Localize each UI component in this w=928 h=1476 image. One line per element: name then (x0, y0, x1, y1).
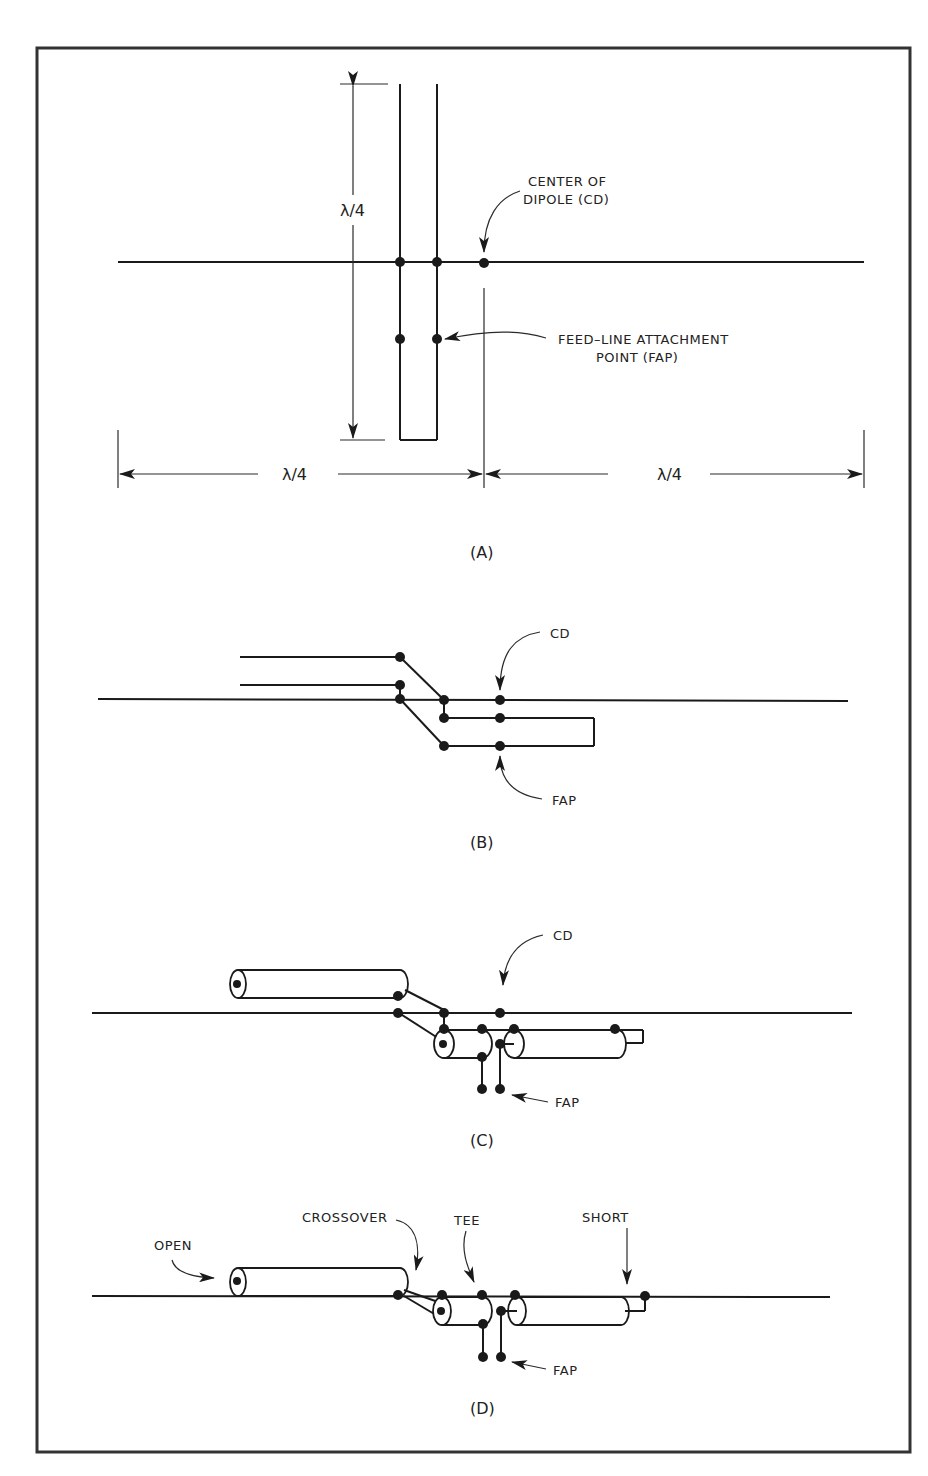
right-dimension-label: λ/4 (657, 465, 682, 484)
crossover-label: CROSSOVER (302, 1210, 388, 1225)
panel-c: CD FAP (C) (92, 928, 852, 1150)
tee-label: TEE (453, 1213, 480, 1228)
fap-label: FAP (555, 1095, 580, 1110)
fap-label: FAP (553, 1363, 578, 1378)
short-label: SHORT (582, 1210, 629, 1225)
panel-d-label: (D) (470, 1399, 495, 1418)
center-of-dipole-label: CENTER OF (528, 174, 607, 189)
cd-label: CD (550, 626, 570, 641)
panel-b-label: (B) (470, 833, 493, 852)
feed-line-attachment-label: FEED–LINE ATTACHMENT (558, 332, 729, 347)
panel-a: λ/4 λ/4 λ/4 CENTER OF DIPOLE (CD) FEED–L… (118, 84, 864, 562)
panel-c-label: (C) (470, 1131, 494, 1150)
left-dimension-label: λ/4 (282, 465, 307, 484)
fap-label: FAP (552, 793, 577, 808)
panel-b: CD FAP (B) (98, 626, 848, 852)
cd-label: CD (553, 928, 573, 943)
panel-a-label: (A) (470, 543, 493, 562)
vertical-dimension-label: λ/4 (340, 201, 365, 220)
dipole-evolution-diagram: λ/4 λ/4 λ/4 CENTER OF DIPOLE (CD) FEED–L… (0, 0, 928, 1476)
open-label: OPEN (154, 1238, 192, 1253)
feed-line-attachment-label-2: POINT (FAP) (596, 350, 678, 365)
center-of-dipole-label-2: DIPOLE (CD) (523, 192, 609, 207)
panel-d: OPEN CROSSOVER TEE SHORT FAP (D) (92, 1210, 830, 1418)
